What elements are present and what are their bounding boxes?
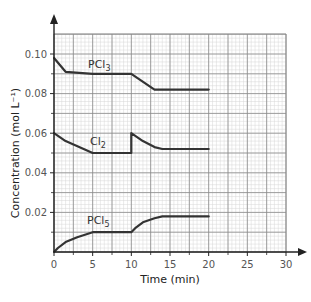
y-tick-label: 0.04 (25, 167, 47, 178)
x-axis-label: Time (min) (139, 273, 200, 286)
series-labels: PCl3Cl2PCl5 (87, 58, 110, 229)
y-tick-label: 0.10 (25, 49, 47, 60)
y-tick-label: 0.02 (25, 207, 47, 218)
y-axis-arrow-icon (50, 14, 58, 24)
y-tick-label: 0.08 (25, 88, 47, 99)
x-tick-label: 30 (280, 259, 293, 270)
x-tick-label: 5 (89, 259, 95, 270)
x-tick-label: 25 (241, 259, 254, 270)
x-tick-label: 10 (125, 259, 138, 270)
concentration-time-chart: 0510152025300.020.040.060.080.10 PCl3Cl2… (0, 0, 311, 302)
chart-canvas: 0510152025300.020.040.060.080.10 PCl3Cl2… (0, 0, 311, 302)
y-tick-label: 0.06 (25, 128, 47, 139)
x-tick-label: 0 (51, 259, 57, 270)
x-axis-arrow-icon (298, 248, 307, 256)
y-axis-label: Concentration (mol L⁻¹) (9, 88, 22, 218)
x-tick-label: 20 (202, 259, 215, 270)
x-tick-label: 15 (164, 259, 177, 270)
series-label-pcl3: PCl3 (88, 58, 110, 73)
